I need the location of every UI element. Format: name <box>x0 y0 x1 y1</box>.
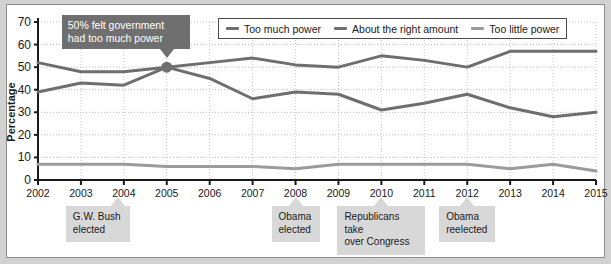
svg-text:2014: 2014 <box>541 187 565 199</box>
event-line-1: Obama <box>446 211 488 224</box>
event-line-1: Obama <box>279 211 313 224</box>
svg-text:2007: 2007 <box>241 187 265 199</box>
svg-text:2015: 2015 <box>584 187 608 199</box>
svg-text:40: 40 <box>18 83 32 97</box>
svg-text:20: 20 <box>18 128 32 142</box>
svg-text:2011: 2011 <box>413 187 436 199</box>
event-marker-obama-reelected: Obama reelected <box>439 206 495 242</box>
svg-text:2006: 2006 <box>198 187 222 199</box>
event-line-1: G.W. Bush <box>73 211 123 224</box>
event-marker-obama-elected: Obama elected <box>272 206 320 242</box>
svg-text:10: 10 <box>18 150 32 164</box>
svg-text:2005: 2005 <box>155 187 179 199</box>
event-tail-icon <box>374 197 388 206</box>
annotation-line-1: 50% felt government <box>68 19 184 32</box>
annotation-line-2: had too much power <box>68 32 184 45</box>
svg-text:50: 50 <box>18 60 32 74</box>
event-line-2: elected <box>73 224 123 237</box>
legend-label: Too much power <box>244 23 321 35</box>
event-line-2: elected <box>279 224 313 237</box>
legend-item-too-much-power: Too much power <box>226 23 321 35</box>
svg-text:2009: 2009 <box>327 187 351 199</box>
event-line-2: over Congress <box>344 236 418 249</box>
legend-swatch-line <box>226 27 239 30</box>
legend-label: Too little power <box>489 23 559 35</box>
event-line-1: Republicans take <box>344 211 418 236</box>
legend-label: About the right amount <box>352 23 458 35</box>
svg-text:2003: 2003 <box>69 187 93 199</box>
callout-tail-icon <box>160 49 174 58</box>
svg-text:2002: 2002 <box>26 187 50 199</box>
annotation-callout: 50% felt government had too much power <box>62 15 190 49</box>
svg-text:30: 30 <box>18 105 32 119</box>
legend-item-about-the-right-amount: About the right amount <box>334 23 458 35</box>
legend-swatch-line <box>334 27 347 30</box>
svg-text:60: 60 <box>18 38 32 52</box>
event-marker-republicans-take-over-congress: Republicans take over Congress <box>337 206 425 255</box>
chart-legend: Too much power About the right amount To… <box>218 18 567 39</box>
svg-text:70: 70 <box>18 15 32 29</box>
legend-item-too-little-power: Too little power <box>471 23 559 35</box>
event-tail-icon <box>289 197 303 206</box>
event-marker-gw-bush-elected: G.W. Bush elected <box>66 206 130 242</box>
svg-text:2013: 2013 <box>498 187 522 199</box>
event-tail-icon <box>111 197 125 206</box>
chart-screenshot: Percentage 01020304050607020022003200420… <box>0 0 611 264</box>
legend-swatch-line <box>471 27 484 30</box>
event-tail-icon <box>460 197 474 206</box>
svg-text:0: 0 <box>24 173 31 187</box>
event-line-2: reelected <box>446 224 488 237</box>
